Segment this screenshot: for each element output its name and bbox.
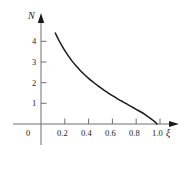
y-tick-label-4: 4	[32, 37, 36, 46]
x-tick-label-1: 0.2	[57, 129, 68, 138]
y-tick-label-1: 1	[32, 99, 36, 108]
data-curve	[55, 33, 157, 124]
y-tick-marks	[41, 41, 47, 103]
plot-area	[0, 0, 187, 179]
x-tick-marks	[65, 119, 160, 125]
x-tick-label-5: 1.0	[152, 129, 163, 138]
y-axis-title: N	[28, 11, 35, 21]
x-tick-label-0: 0	[26, 129, 30, 138]
x-axis-title: ξ	[166, 128, 170, 138]
y-tick-label-2: 2	[32, 79, 36, 88]
y-tick-label-3: 3	[32, 58, 36, 67]
x-tick-label-4: 0.8	[129, 129, 140, 138]
chart-figure: 0 0.2 0.4 0.6 0.8 1.0 1 2 3 4 N ξ	[0, 0, 187, 179]
y-axis-arrow-icon	[38, 13, 44, 23]
x-axis-arrow-icon	[169, 121, 179, 127]
x-tick-label-3: 0.6	[105, 129, 116, 138]
x-tick-label-2: 0.4	[81, 129, 92, 138]
